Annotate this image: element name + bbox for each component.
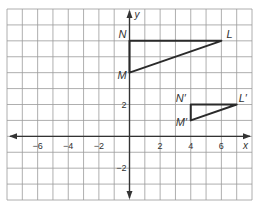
- vertex-label: N: [119, 28, 127, 40]
- x-tick-label: −4: [63, 141, 73, 151]
- vertex-label: L′: [239, 92, 248, 104]
- y-tick-label: 2: [121, 100, 126, 110]
- vertex-label: N′: [176, 92, 187, 104]
- vertex-label: M′: [176, 116, 188, 128]
- x-axis-right-arrow-icon: [243, 133, 251, 139]
- triangles: NLMN′L′M′: [118, 28, 248, 129]
- x-tick-label: −6: [32, 141, 42, 151]
- x-axis-left-arrow-icon: [9, 133, 17, 139]
- y-tick-label: −2: [116, 163, 126, 173]
- vertex-label: M: [118, 69, 128, 81]
- x-tick-label: 2: [158, 141, 163, 151]
- triangle-LMN-prime: [191, 105, 237, 121]
- y-axis-up-arrow-icon: [127, 10, 133, 18]
- y-axis-down-arrow-icon: [127, 191, 133, 199]
- x-tick-label: 6: [219, 141, 224, 151]
- x-axis-label: x: [242, 140, 249, 151]
- coordinate-plane: xy −6−4−22462−2 NLMN′L′M′: [0, 0, 257, 208]
- x-tick-label: −2: [94, 141, 104, 151]
- y-axis-label: y: [134, 9, 141, 20]
- vertex-label: L: [226, 28, 232, 40]
- x-tick-label: 4: [188, 141, 193, 151]
- coordinate-plane-figure: xy −6−4−22462−2 NLMN′L′M′: [0, 0, 257, 208]
